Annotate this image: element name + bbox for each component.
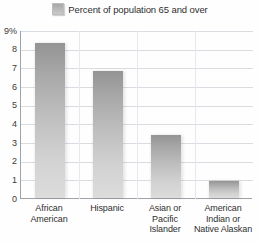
y-tick-label-3: 3	[0, 139, 17, 148]
x-tick-label-line: Indian or	[187, 214, 259, 225]
x-tick-label-line: American	[187, 203, 259, 214]
bar-0[interactable]	[35, 43, 65, 198]
x-tick-label-3: AmericanIndian orNative Alaskan	[187, 203, 259, 235]
y-tick-label-7: 7	[0, 64, 17, 73]
gridline-x-3	[195, 31, 196, 199]
y-axis-labels: 9%876543210	[0, 31, 17, 199]
plot-inner	[21, 31, 252, 198]
x-tick-label-line: American	[13, 214, 85, 225]
x-axis-labels: AfricanAmericanHispanicAsian orPacificIs…	[20, 203, 252, 244]
y-tick-label-6: 6	[0, 83, 17, 92]
y-tick-label-1: 1	[0, 176, 17, 185]
y-tick-label-5: 5	[0, 101, 17, 110]
y-tick-label-9: 9%	[0, 27, 17, 36]
y-tick-label-2: 2	[0, 157, 17, 166]
bar-3[interactable]	[209, 181, 239, 198]
plot-area	[20, 31, 252, 199]
legend-color-swatch-icon	[52, 3, 64, 15]
bar-chart: Percent of population 65 and over 9%8765…	[0, 0, 260, 244]
y-tick-label-4: 4	[0, 120, 17, 129]
x-tick-label-line: Native Alaskan	[187, 224, 259, 235]
gridline-x-2	[137, 31, 138, 199]
legend-label: Percent of population 65 and over	[68, 4, 207, 15]
y-tick-label-8: 8	[0, 45, 17, 54]
bar-2[interactable]	[151, 135, 181, 198]
bar-1[interactable]	[93, 71, 123, 198]
gridline-x-1	[79, 31, 80, 199]
chart-legend: Percent of population 65 and over	[0, 3, 260, 15]
